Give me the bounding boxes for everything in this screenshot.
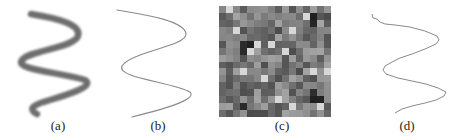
noise-cell [324,27,331,34]
noise-cell [303,6,310,13]
noise-cell [254,48,261,55]
noise-cell [289,27,296,34]
noise-cell [233,82,240,89]
noise-cell [296,75,303,82]
noise-cell [268,75,275,82]
noise-cell [240,55,247,62]
noise-cell [219,68,226,75]
noise-cell [324,103,331,110]
noise-cell [261,89,268,96]
noise-cell [317,96,324,103]
noise-cell [275,20,282,27]
noise-cell [226,41,233,48]
noise-cell [296,62,303,69]
noise-cell [247,110,254,117]
noise-cell [317,55,324,62]
noise-cell [296,41,303,48]
noise-cell [310,68,317,75]
noise-cell [240,34,247,41]
noise-cell [247,20,254,27]
noise-cell [226,6,233,13]
noise-cell [310,103,317,110]
noise-cell [247,68,254,75]
noise-cell [303,110,310,117]
noise-cell [268,6,275,13]
noise-cell [233,20,240,27]
noise-cell [261,82,268,89]
noise-cell [240,20,247,27]
noise-cell [296,82,303,89]
noise-cell [240,41,247,48]
noise-cell [275,103,282,110]
noise-cell [289,6,296,13]
noise-cell [268,62,275,69]
noise-cell [261,13,268,20]
noise-cell [261,34,268,41]
noise-cell [303,62,310,69]
noise-cell [296,110,303,117]
noise-cell [261,96,268,103]
noise-cell [233,34,240,41]
noise-cell [310,27,317,34]
noise-cell [226,48,233,55]
noise-cell [233,89,240,96]
noise-cell [282,110,289,117]
noise-cell [275,34,282,41]
noise-cell [254,13,261,20]
noise-cell [233,62,240,69]
noise-cell [219,103,226,110]
noise-cell [226,55,233,62]
noise-cell [261,6,268,13]
noise-cell [303,48,310,55]
noise-cell [275,48,282,55]
noise-cell [289,48,296,55]
noise-cell [233,75,240,82]
noise-cell [219,27,226,34]
noise-cell [247,82,254,89]
noise-cell [254,89,261,96]
noise-cell [226,68,233,75]
noise-cell [268,96,275,103]
noise-cell [282,34,289,41]
noise-cell [296,103,303,110]
noise-cell [324,55,331,62]
noise-cell [317,68,324,75]
noise-cell [317,13,324,20]
noise-cell [282,27,289,34]
noise-cell [254,96,261,103]
noise-cell [247,89,254,96]
noise-cell [233,68,240,75]
noise-cell [303,20,310,27]
noise-cell [240,103,247,110]
noise-cell [247,41,254,48]
noise-cell [254,68,261,75]
noise-cell [247,48,254,55]
noise-cell [254,34,261,41]
noise-cell [275,110,282,117]
noise-cell [233,103,240,110]
noise-cell [310,20,317,27]
noise-cell [219,82,226,89]
noise-cell [324,13,331,20]
noise-cell [226,103,233,110]
caption-d: (d) [399,118,414,134]
noise-cell [289,41,296,48]
noise-cell [275,89,282,96]
thick-sine-stroke [0,0,115,120]
noise-cell [268,41,275,48]
noise-cell [268,20,275,27]
noise-cell [219,110,226,117]
noise-cell [219,55,226,62]
noise-cell [226,20,233,27]
noise-cell [226,62,233,69]
noise-cell [324,41,331,48]
noise-cell [296,20,303,27]
noise-cell [240,89,247,96]
noise-cell [261,27,268,34]
noise-cell [240,62,247,69]
noise-cell [289,62,296,69]
noise-cell [240,96,247,103]
noise-cell [247,103,254,110]
noise-cell [261,55,268,62]
noise-cell [317,27,324,34]
